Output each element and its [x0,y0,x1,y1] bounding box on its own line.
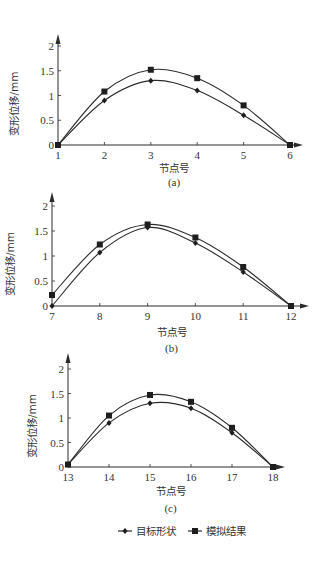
y-tick-label: 2 [59,363,65,375]
series-line-simulated [58,69,290,145]
diamond-marker-icon [148,78,153,84]
y-tick-label: 0.5 [40,114,54,126]
series-line-simulated [68,394,273,467]
diamond-marker-icon [188,405,193,411]
x-axis-label: 节点号 [159,162,189,174]
y-tick-label: 1 [43,250,49,262]
square-marker-icon [97,242,103,248]
square-marker-icon [55,142,61,148]
square-marker-icon [188,399,194,405]
square-marker-icon [101,89,107,95]
x-tick-label: 12 [286,310,297,322]
square-marker-icon [241,102,247,108]
diamond-marker-icon [193,240,198,246]
x-tick-label: 13 [63,471,75,483]
x-tick-label: 3 [148,149,154,161]
series-line-simulated [52,224,291,306]
square-marker-icon [240,264,246,270]
square-marker-icon [106,413,112,419]
chart-panel-b: 00.511.52789101112变形位移/mm节点号(b) [4,192,309,355]
y-axis-arrow-icon [56,34,61,44]
legend-item-label: 模拟结果 [206,525,247,537]
series-line-target [52,227,291,306]
y-tick-label: 0 [43,300,49,312]
square-marker-icon [229,425,235,431]
y-tick-label: 1 [49,90,55,102]
series-line-target [68,402,273,467]
x-tick-label: 1 [55,149,61,161]
diamond-marker-icon [102,97,107,103]
y-tick-label: 0 [49,139,55,151]
chart-panel-c: 00.511.52131415161718变形位移/mm节点号(c) [26,353,285,515]
series-line-target [58,80,290,145]
x-tick-label: 5 [241,149,247,161]
square-marker-icon [49,292,55,298]
x-axis-arrow-icon [294,143,303,148]
y-axis-label: 变形位移/mm [4,232,16,296]
panel-caption: (b) [165,342,178,355]
square-marker-icon [148,67,154,73]
square-marker-icon [65,462,71,468]
x-tick-label: 4 [194,149,200,161]
square-marker-icon [287,142,293,148]
square-marker-icon [145,222,151,228]
panel-caption: (c) [164,502,177,515]
diamond-marker-icon [147,400,152,406]
y-axis-arrow-icon [66,353,71,363]
x-tick-label: 9 [145,310,151,322]
square-marker-icon [192,235,198,241]
panel-caption: (a) [168,176,181,189]
square-marker-icon [194,75,200,81]
square-marker-icon [288,303,294,309]
figure: 00.511.52123456变形位移/mm节点号(a) 00.511.5278… [0,0,326,567]
x-tick-label: 10 [190,310,202,322]
x-tick-label: 17 [227,471,239,483]
y-tick-label: 1 [59,412,65,424]
legend-item-label: 目标形状 [136,525,177,537]
y-tick-label: 0.5 [50,437,64,449]
x-tick-label: 6 [287,149,293,161]
y-axis-label: 变形位移/mm [26,394,38,458]
x-tick-label: 8 [97,310,103,322]
square-marker-icon [270,464,276,470]
x-axis-arrow-icon [276,465,285,470]
y-axis-arrow-icon [50,192,55,202]
legend: 目标形状模拟结果 [118,525,247,537]
x-tick-label: 7 [49,310,55,322]
x-tick-label: 2 [102,149,108,161]
x-axis-label: 节点号 [157,326,187,338]
y-tick-label: 1.5 [40,65,54,77]
y-tick-label: 1.5 [34,225,48,237]
x-tick-label: 11 [238,310,249,322]
x-tick-label: 15 [145,471,157,483]
x-tick-label: 14 [104,471,116,483]
square-marker-icon [147,392,153,398]
square-marker-icon [192,528,198,534]
x-tick-label: 18 [268,471,280,483]
diamond-marker-icon [122,528,127,534]
chart-panel-a: 00.511.52123456变形位移/mm节点号(a) [8,34,303,189]
y-tick-label: 0.5 [34,275,48,287]
y-tick-label: 2 [49,40,55,52]
y-tick-label: 2 [43,200,49,212]
diamond-marker-icon [195,88,200,94]
diamond-marker-icon [241,112,246,118]
x-tick-label: 16 [186,471,198,483]
x-axis-label: 节点号 [156,485,186,497]
y-axis-label: 变形位移/mm [8,72,20,136]
y-tick-label: 1.5 [50,388,64,400]
x-axis-arrow-icon [300,304,309,309]
